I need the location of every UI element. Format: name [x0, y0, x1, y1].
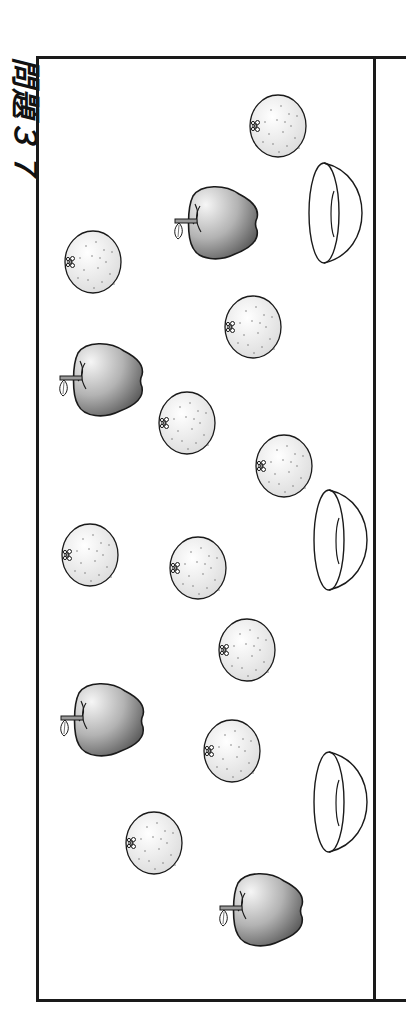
bowl-icon [306, 161, 364, 265]
orange-icon [168, 535, 228, 601]
bowl-icon [311, 488, 369, 592]
frame-border-bottom [36, 999, 406, 1002]
apple-icon [59, 679, 149, 759]
frame-border-left [36, 56, 39, 1002]
apple-icon [218, 869, 308, 949]
orange-icon [254, 433, 314, 499]
orange-icon [60, 522, 120, 588]
orange-icon [248, 93, 308, 159]
bowl-icon [311, 750, 369, 854]
apple-icon [58, 339, 148, 419]
apple-icon [173, 182, 263, 262]
orange-icon [124, 810, 184, 876]
orange-icon [223, 294, 283, 360]
frame-border-top [36, 56, 406, 59]
orange-icon [202, 718, 262, 784]
orange-icon [217, 617, 277, 683]
orange-icon [157, 390, 217, 456]
orange-icon [63, 229, 123, 295]
frame-border-right [373, 56, 376, 1002]
